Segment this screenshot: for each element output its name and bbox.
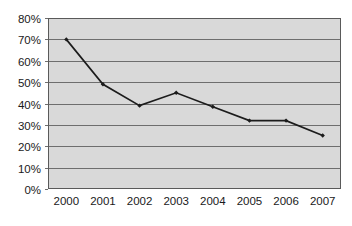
x-axis-tick-label: 2002 [127, 195, 153, 207]
x-axis-tick-label: 2007 [310, 195, 336, 207]
x-axis-tick-label: 2001 [90, 195, 116, 207]
y-axis-tick-label: 20% [18, 141, 41, 153]
x-axis-tick-label: 2000 [54, 195, 80, 207]
x-axis-tick-label: 2004 [200, 195, 226, 207]
y-axis-tick-label: 30% [18, 120, 41, 132]
x-axis-tick-label: 2005 [237, 195, 263, 207]
y-axis-tick-label: 70% [18, 34, 41, 46]
x-axis-labels: 20002001200220032004200520062007 [54, 195, 336, 207]
y-axis-tickmarks [45, 19, 48, 190]
y-axis-tick-label: 10% [18, 163, 41, 175]
y-axis-tick-label: 60% [18, 56, 41, 68]
y-axis-labels: 0%10%20%30%40%50%60%70%80% [18, 13, 41, 196]
plot-background [48, 18, 341, 189]
chart-canvas: 0%10%20%30%40%50%60%70%80% 2000200120022… [0, 0, 352, 226]
y-axis-tick-label: 80% [18, 13, 41, 25]
x-axis-tick-label: 2003 [163, 195, 189, 207]
line-chart: 0%10%20%30%40%50%60%70%80% 2000200120022… [0, 0, 352, 226]
x-axis-tick-label: 2006 [273, 195, 299, 207]
y-axis-tick-label: 0% [24, 184, 41, 196]
y-axis-tick-label: 40% [18, 99, 41, 111]
y-axis-tick-label: 50% [18, 77, 41, 89]
